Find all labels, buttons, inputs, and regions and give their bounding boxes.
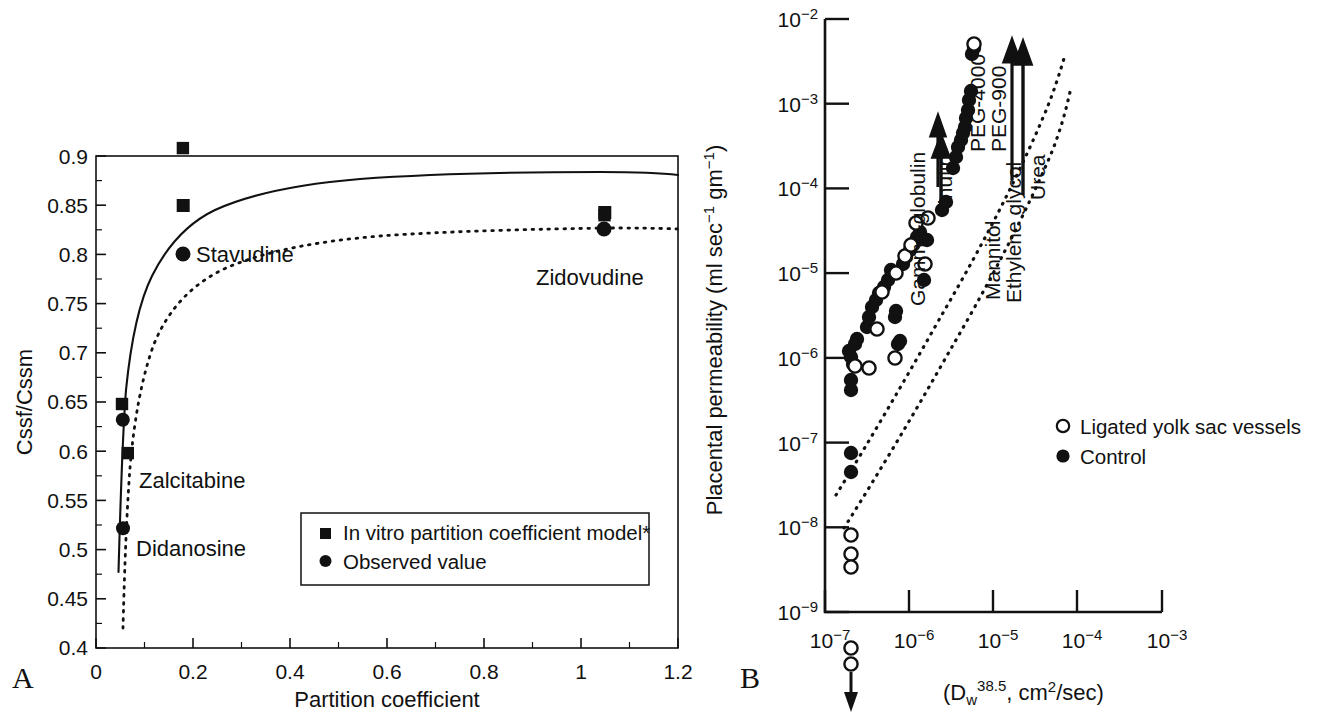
panel-b-legend-label-0: Ligated yolk sac vessels	[1080, 415, 1301, 438]
panel-a-ytick-9: 0.85	[47, 194, 88, 217]
panel-a-circle-didanosine	[116, 521, 130, 535]
panel-a-ylabel: Cssf/Cssm	[12, 349, 37, 455]
panel-a-circle-zalcitabine	[116, 413, 130, 427]
figure-background	[0, 0, 1337, 716]
panel-a-annotation-stavudine: Stavudine	[196, 242, 294, 267]
panel-b-ylabel: Placental permeability (ml sec−1 gm−1)	[700, 145, 727, 515]
panel-a-legend-label-1: Observed value	[343, 550, 487, 573]
panel-a-xlabel: Partition coefficient	[294, 687, 479, 712]
panel-a-ytick-8: 0.8	[59, 243, 88, 266]
panel-b-label-peg-4000: PEG-4000	[966, 54, 989, 152]
panel-a-annotation-zidovudine: Zidovudine	[536, 265, 644, 290]
panel-a-ytick-1: 0.45	[47, 587, 88, 610]
figure-root: 0.4 0.45 0.5 0.55 0.6 0.65 0.7 0.75 0.8 …	[0, 0, 1337, 716]
panel-a-ytick-3: 0.55	[47, 489, 88, 512]
panel-a-xtick-0: 0	[90, 660, 102, 683]
panel-a-xtick-2: 0.4	[275, 660, 305, 683]
panel-a-legend-square-icon	[320, 528, 331, 539]
panel-a-square-zidovudine-plot	[598, 206, 611, 219]
figure-svg: 0.4 0.45 0.5 0.55 0.6 0.65 0.7 0.75 0.8 …	[0, 0, 1337, 716]
panel-b-letter: B	[740, 661, 760, 694]
panel-a-square-stavudine-plot	[177, 199, 190, 212]
panel-a-legend: In vitro partition coefficient model* Ob…	[301, 513, 650, 585]
panel-a-ytick-6: 0.7	[59, 341, 88, 364]
panel-a-ytick-4: 0.6	[59, 440, 88, 463]
panel-a-xtick-4: 0.8	[469, 660, 498, 683]
panel-a-ytick-7: 0.75	[47, 292, 88, 315]
panel-a-annotation-zalcitabine: Zalcitabine	[139, 468, 245, 493]
panel-a-circle-zidovudine	[597, 222, 612, 237]
panel-a-square-stavudine	[177, 142, 189, 154]
panel-a-ytick-5: 0.65	[47, 390, 88, 413]
panel-a-ytick-10: 0.9	[59, 145, 88, 168]
panel-a-circle-stavudine	[176, 247, 191, 262]
panel-a-square-didanosine	[122, 447, 134, 459]
panel-a-legend-label-0: In vitro partition coefficient model*	[343, 521, 650, 544]
panel-a-ytick-0: 0.4	[59, 636, 89, 659]
panel-b-label-mannitol: Mannitol	[981, 221, 1004, 300]
panel-a-annotation-didanosine: Didanosine	[136, 536, 246, 561]
panel-a-square-zalcitabine	[116, 398, 128, 410]
panel-b-label-ethylene-glycol: Ethylene glycol	[1002, 162, 1025, 303]
panel-b-label-peg-900: PEG-900	[987, 66, 1010, 152]
panel-b-legend-label-1: Control	[1080, 445, 1146, 468]
panel-a-xtick-6: 1.2	[663, 660, 692, 683]
panel-b-legend-open-circle-icon	[1057, 420, 1069, 432]
panel-a-letter: A	[12, 661, 34, 694]
panel-a-xtick-3: 0.6	[372, 660, 401, 683]
panel-b-legend-filled-circle-icon	[1056, 449, 1069, 462]
panel-a-ytick-2: 0.5	[59, 538, 88, 561]
panel-b-label-inulin: Inulin	[933, 155, 956, 205]
panel-a-legend-circle-icon	[320, 555, 332, 567]
panel-b-label-gamma-globulin: Gamma-globulin	[906, 152, 929, 306]
panel-a-xtick-1: 0.2	[178, 660, 207, 683]
panel-b-label-urea: Urea	[1026, 154, 1049, 200]
panel-a-xtick-5: 1	[575, 660, 587, 683]
